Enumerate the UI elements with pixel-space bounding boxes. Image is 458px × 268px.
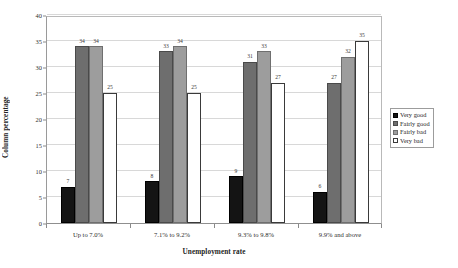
x-axis-tick-mark [214, 224, 215, 228]
y-axis-tick-mark [43, 16, 46, 17]
y-axis-tick-label: 0 [20, 221, 42, 227]
bar-value-label: 33 [261, 44, 267, 50]
y-axis-tick-label: 35 [20, 39, 42, 45]
y-axis-tick-label: 5 [20, 195, 42, 201]
x-axis-tick-mark [298, 224, 299, 228]
bar-wrap: 25 [187, 93, 201, 223]
bar-wrap: 31 [243, 62, 257, 223]
y-axis-tick-mark [43, 146, 46, 147]
bar-value-label: 32 [345, 49, 351, 55]
bar-value-label: 35 [359, 33, 365, 39]
x-axis-tick-label: Up to 7.0% [73, 231, 103, 239]
x-axis-tick-mark [130, 224, 131, 228]
bar[interactable] [355, 41, 369, 223]
y-axis-tick-label: 15 [20, 143, 42, 149]
bar-group: 8333425 [131, 17, 215, 223]
bar[interactable] [103, 93, 117, 223]
bar-wrap: 32 [341, 57, 355, 223]
bar-wrap: 34 [75, 46, 89, 223]
y-axis-tick-mark [43, 198, 46, 199]
y-axis-tick-mark [43, 94, 46, 95]
bar-value-label: 34 [93, 39, 99, 45]
bar[interactable] [145, 181, 159, 223]
bar-value-label: 33 [163, 44, 169, 50]
bar[interactable] [243, 62, 257, 223]
legend-swatch-icon [393, 138, 398, 143]
y-axis-tick-mark [43, 42, 46, 43]
bar-value-label: 25 [107, 85, 113, 91]
x-axis-title: Unemployment rate [46, 248, 382, 256]
bar[interactable] [159, 51, 173, 223]
bar-group: 9313327 [215, 17, 299, 223]
legend-item[interactable]: Very good [393, 111, 430, 120]
y-axis-tick-labels: 0510152025303540 [20, 16, 42, 224]
legend-swatch-icon [393, 130, 398, 135]
y-axis-tick-label: 25 [20, 91, 42, 97]
legend-swatch-icon [393, 121, 398, 126]
bar-group: 7343425 [47, 17, 131, 223]
y-axis-tick-mark [43, 120, 46, 121]
bar[interactable] [173, 46, 187, 223]
y-axis-title: Column percentage [2, 62, 16, 192]
bar-value-label: 31 [247, 54, 253, 60]
bar-wrap: 8 [145, 181, 159, 223]
x-axis-tick-mark [46, 224, 47, 228]
bar-value-label: 6 [319, 184, 322, 190]
y-axis-tick-label: 40 [20, 13, 42, 19]
bar[interactable] [271, 83, 285, 223]
bar-value-label: 27 [331, 75, 337, 81]
bar-wrap: 25 [103, 93, 117, 223]
legend-item[interactable]: Very bad [393, 137, 430, 146]
legend: Very goodFairly goodFairly badVery bad [390, 108, 434, 148]
bar[interactable] [313, 192, 327, 223]
legend-item-label: Very bad [400, 138, 423, 144]
legend-item-label: Very good [400, 112, 426, 118]
legend-swatch-icon [393, 113, 398, 118]
y-axis-tick-mark [43, 172, 46, 173]
bar-value-label: 7 [67, 179, 70, 185]
legend-item-label: Fairly good [400, 121, 430, 127]
bar-wrap: 34 [173, 46, 187, 223]
bar-value-label: 27 [275, 75, 281, 81]
bar[interactable] [75, 46, 89, 223]
bar-value-label: 9 [235, 169, 238, 175]
x-axis-tick-label: 9.3% to 9.8% [238, 231, 274, 239]
gridline [47, 14, 381, 15]
bar-value-label: 25 [191, 85, 197, 91]
bar[interactable] [327, 83, 341, 223]
bar[interactable] [187, 93, 201, 223]
bar-wrap: 33 [159, 51, 173, 223]
legend-item-label: Fairly bad [400, 129, 426, 135]
bar[interactable] [229, 176, 243, 223]
plot-area: 7343425833342593133276273235 [46, 16, 382, 224]
bar-chart: Column percentage 0510152025303540 73434… [0, 0, 458, 268]
x-axis-tick-label: 7.1% to 9.2% [154, 231, 190, 239]
bar-group: 6273235 [299, 17, 383, 223]
bar-wrap: 35 [355, 41, 369, 223]
bar-wrap: 6 [313, 192, 327, 223]
x-axis-tick-labels: Up to 7.0%7.1% to 9.2%9.3% to 9.8%9.9% a… [46, 231, 382, 243]
bar-wrap: 33 [257, 51, 271, 223]
bar[interactable] [257, 51, 271, 223]
bar-value-label: 34 [177, 39, 183, 45]
legend-item[interactable]: Fairly bad [393, 128, 430, 137]
x-axis-tick-label: 9.9% and above [319, 231, 361, 239]
bar-wrap: 27 [327, 83, 341, 223]
bar[interactable] [341, 57, 355, 223]
legend-item[interactable]: Fairly good [393, 120, 430, 129]
bar-wrap: 9 [229, 176, 243, 223]
bar-groups: 7343425833342593133276273235 [47, 17, 381, 223]
bar-value-label: 8 [151, 174, 154, 180]
bar-wrap: 27 [271, 83, 285, 223]
bar-value-label: 34 [79, 39, 85, 45]
y-axis-tick-label: 20 [20, 117, 42, 123]
bar-wrap: 34 [89, 46, 103, 223]
y-axis-tick-mark [43, 68, 46, 69]
bar[interactable] [61, 187, 75, 223]
bar-wrap: 7 [61, 187, 75, 223]
y-axis-tick-label: 10 [20, 169, 42, 175]
y-axis-tick-label: 30 [20, 65, 42, 71]
bar[interactable] [89, 46, 103, 223]
x-axis-tick-mark [381, 224, 382, 228]
